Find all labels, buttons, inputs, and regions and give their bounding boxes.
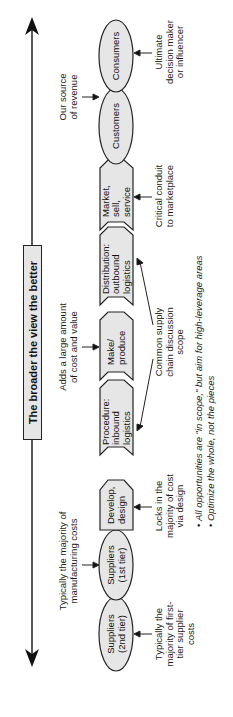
bullet-note: All opportunities are "in scope," but ai… [193,256,205,527]
procedure-label: Procedure: inbound logistics [100,383,133,445]
supply-chain-diagram: The broader the view the better Supplier… [0,0,233,717]
common-scope-annotation: Common supply chain discussion scope [154,297,186,387]
suppliers-2nd-tier-label: Suppliers (2nd tier) [100,599,133,669]
bullet-note: Optimize the whole, not the pieces [205,256,217,527]
develop-label: Develop, design [100,480,133,524]
make-label: Make/ produce [100,313,133,365]
market-label: Market, sell, service [100,161,133,217]
distribution-label: Distribution: outbound logistics [100,228,133,294]
scope-banner: The broader the view the better [23,245,42,440]
suppliers-1st-tier-annotation: Typically the majority of manufacturing … [58,501,79,621]
consumers-annotation: Ultimate decision maker or influencer [154,7,186,97]
customers-annotation: Our source of revenue [58,57,79,137]
develop-annotation: Locks in the majority of cost via design [154,463,186,549]
make-annotation: Adds a large amount of cost and value [58,287,79,407]
suppliers-2nd-tier-annotation: Typically the majority of first- tier su… [154,591,196,677]
consumers-label: Consumers [100,20,133,92]
suppliers-1st-tier-label: Suppliers (1st tier) [100,531,133,599]
customers-label: Customers [100,88,133,164]
market-annotation: Critical conduit to marketplace [154,153,175,239]
bullet-notes: All opportunities are "in scope," but ai… [193,256,217,527]
